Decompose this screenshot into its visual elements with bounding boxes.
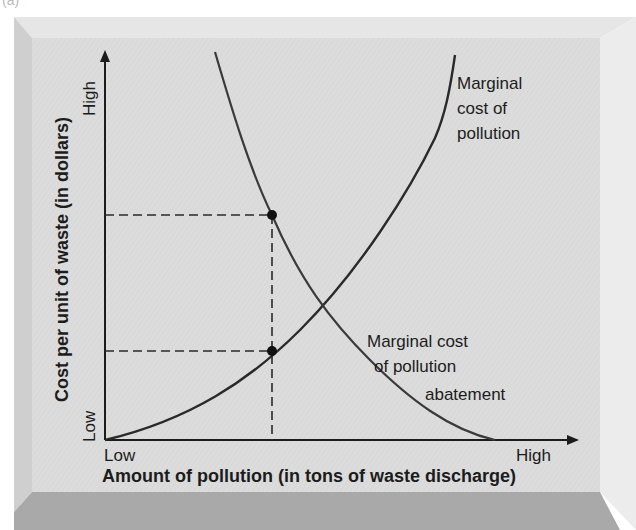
pollution-curve-label-line2: cost of (457, 99, 507, 119)
y-tick-high: High (80, 81, 100, 116)
x-tick-low: Low (104, 446, 135, 466)
panel-top-bevel (14, 17, 636, 38)
y-axis-title: Cost per unit of waste (in dollars) (52, 82, 72, 437)
panel-face (32, 38, 600, 492)
lower-point (267, 346, 277, 356)
panel-right-bevel (600, 17, 636, 530)
abatement-curve-label-line3: abatement (425, 385, 505, 405)
x-tick-high: High (516, 446, 551, 466)
panel-left-bevel (14, 17, 32, 512)
pollution-curve-label-line3: pollution (457, 124, 520, 144)
y-tick-low: Low (80, 411, 100, 442)
abatement-curve-label-line1: Marginal cost (367, 332, 468, 352)
figure-corner-mark: (a) (2, 0, 19, 10)
x-axis-title: Amount of pollution (in tons of waste di… (102, 466, 516, 486)
pollution-curve-label-line1: Marginal (457, 74, 522, 94)
abatement-curve-label-line2: of pollution (374, 357, 456, 377)
panel-bottom-bevel (14, 492, 620, 530)
upper-point (267, 210, 277, 220)
